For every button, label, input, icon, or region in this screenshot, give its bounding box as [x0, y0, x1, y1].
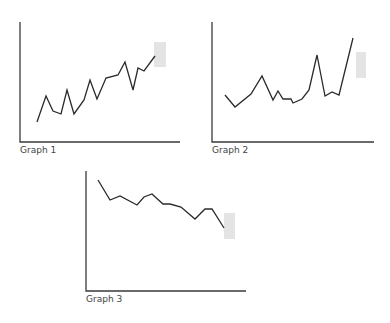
graph-2-label: Graph 2 [212, 145, 248, 155]
data-line [225, 38, 353, 107]
graph-2 [212, 22, 374, 142]
highlight-box [356, 52, 366, 78]
charts-canvas [0, 0, 390, 323]
axes [20, 22, 180, 142]
data-line [37, 56, 155, 122]
data-line [98, 180, 224, 228]
graph-3-label: Graph 3 [86, 294, 122, 304]
axes [86, 171, 246, 291]
highlight-box [154, 42, 166, 67]
graph-1 [20, 22, 180, 142]
graph-3 [86, 171, 246, 291]
graph-1-label: Graph 1 [20, 145, 56, 155]
axes [212, 22, 374, 142]
highlight-box [224, 213, 235, 239]
